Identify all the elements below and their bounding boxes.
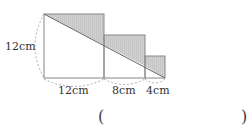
height-brace	[35, 14, 44, 78]
answer-blank[interactable]	[108, 109, 238, 125]
height-label: 12cm	[5, 41, 36, 52]
shaded-region-3	[145, 56, 165, 78]
answer-open-paren: (	[98, 109, 104, 125]
side-4-label: 4cm	[146, 85, 170, 96]
side-12-label: 12cm	[58, 85, 89, 96]
shaded-region-2	[104, 35, 145, 66]
side-8-label: 8cm	[112, 85, 136, 96]
answer-close-paren: )	[241, 109, 247, 125]
brace-4	[145, 79, 165, 83]
